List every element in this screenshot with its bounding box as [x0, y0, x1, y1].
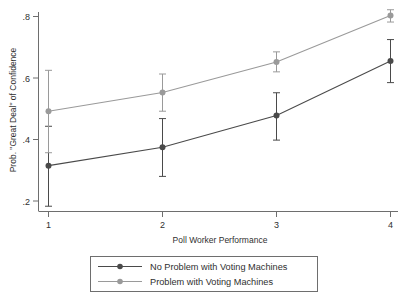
- legend-label: Problem with Voting Machines: [150, 277, 273, 287]
- data-point-marker: [160, 144, 166, 150]
- legend-entry-problem[interactable]: Problem with Voting Machines: [98, 277, 273, 287]
- x-axis-title: Poll Worker Performance: [173, 235, 268, 245]
- y-axis-title: Prob. "Great Deal" of Confidence: [8, 47, 18, 172]
- y-tick-label: .8: [22, 12, 30, 22]
- chart-figure: Prob. "Great Deal" of Confidence .8 .6 .…: [0, 0, 403, 296]
- x-axis-ticks: 1 2 3 4: [46, 212, 393, 231]
- data-point-marker: [274, 113, 280, 119]
- series-layer: [45, 10, 394, 206]
- legend-entry-no-problem[interactable]: No Problem with Voting Machines: [98, 262, 288, 272]
- series-no-problem-with-voting-machines: [45, 40, 394, 207]
- x-tick-label: 1: [46, 220, 51, 230]
- y-tick-label: .6: [22, 74, 30, 84]
- x-tick-label: 4: [388, 220, 393, 230]
- legend-label: No Problem with Voting Machines: [150, 262, 288, 272]
- data-point-marker: [274, 59, 280, 65]
- x-tick-label: 3: [274, 220, 279, 230]
- data-point-marker: [388, 58, 394, 64]
- y-axis-ticks: .8 .6 .4 .2: [22, 12, 38, 207]
- data-point-marker: [46, 108, 52, 114]
- data-point-marker: [46, 163, 52, 169]
- y-tick-label: .4: [22, 135, 30, 145]
- line-chart-canvas: Prob. "Great Deal" of Confidence .8 .6 .…: [0, 0, 403, 296]
- legend-marker-swatch: [117, 264, 123, 270]
- legend-marker-swatch: [117, 279, 123, 285]
- data-point-marker: [388, 13, 394, 19]
- y-tick-label: .2: [22, 197, 30, 207]
- x-tick-label: 2: [160, 220, 165, 230]
- data-point-marker: [160, 89, 166, 95]
- series-line: [49, 16, 391, 112]
- chart-legend: No Problem with Voting Machines Problem …: [91, 257, 318, 292]
